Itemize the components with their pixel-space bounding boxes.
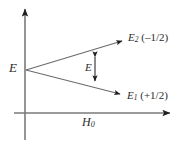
- lower-level-value: (+1/2): [140, 89, 168, 101]
- upper-level-subscript: 2: [135, 35, 139, 44]
- lower-level-label: E1 (+1/2): [127, 90, 168, 102]
- magnetic-field-axis-label: H0: [82, 116, 95, 130]
- magnetic-field-symbol: H: [82, 115, 91, 129]
- zeeman-splitting-figure: E E E2 (–1/2) E1 (+1/2) H0: [0, 0, 181, 148]
- lower-level-subscript: 1: [134, 93, 138, 102]
- lower-level-line: [26, 70, 120, 94]
- splitting-gap-label: E: [85, 62, 92, 73]
- origin-energy-label: E: [9, 61, 17, 74]
- upper-level-line: [26, 41, 122, 70]
- upper-level-value: (–1/2): [141, 31, 168, 43]
- upper-level-symbol: E: [128, 31, 135, 43]
- lower-level-symbol: E: [127, 89, 134, 101]
- magnetic-field-subscript: 0: [91, 120, 95, 129]
- upper-level-label: E2 (–1/2): [128, 32, 168, 44]
